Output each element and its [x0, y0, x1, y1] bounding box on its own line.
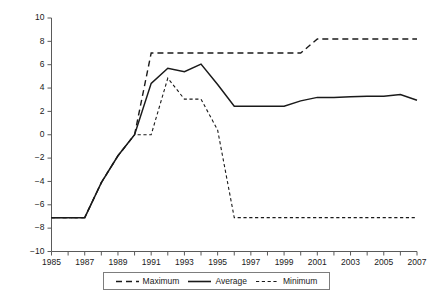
y-tick-label: −8 — [35, 222, 45, 232]
x-tick-label: 1987 — [75, 257, 94, 267]
legend-entry-maximum: Maximum — [116, 277, 180, 286]
x-tick-label: 2005 — [374, 257, 393, 267]
y-tick-label: 0 — [40, 129, 45, 139]
x-tick-label: 1995 — [208, 257, 227, 267]
legend-label-average: Average — [215, 277, 247, 286]
x-tick-label: 2003 — [341, 257, 360, 267]
y-tick-label: −6 — [35, 199, 45, 209]
y-axis-ticks — [48, 18, 52, 252]
series-line-average — [52, 64, 418, 218]
legend-label-minimum: Minimum — [283, 277, 317, 286]
y-tick-label: 4 — [40, 82, 45, 92]
legend-entry-minimum: Minimum — [256, 277, 317, 286]
y-tick-label: 10 — [35, 12, 45, 22]
x-tick-label: 1991 — [142, 257, 161, 267]
x-tick-label: 1989 — [108, 257, 127, 267]
plot-area: 1086420−2−4−6−8−10 198519871989199119931… — [0, 0, 432, 302]
legend-label-maximum: Maximum — [143, 277, 180, 286]
data-series-group — [52, 39, 418, 218]
x-tick-label: 2007 — [408, 257, 427, 267]
x-tick-label: 2001 — [308, 257, 327, 267]
legend-swatch-minimum — [256, 277, 279, 286]
legend-swatch-maximum — [116, 277, 139, 286]
legend-entry-average: Average — [188, 277, 247, 286]
line-chart: 1086420−2−4−6−8−10 198519871989199119931… — [0, 0, 432, 302]
y-axis-tick-labels: 1086420−2−4−6−8−10 — [30, 12, 45, 256]
y-tick-label: 6 — [40, 59, 45, 69]
legend-swatch-average — [188, 277, 211, 286]
series-line-maximum — [52, 39, 418, 218]
y-tick-label: −2 — [35, 152, 45, 162]
chart-legend: Maximum Average Minimum — [103, 272, 330, 290]
x-tick-label: 1999 — [275, 257, 294, 267]
y-tick-label: 2 — [40, 106, 45, 116]
x-axis-tick-labels: 1985198719891991199319951997199920012003… — [42, 257, 427, 267]
x-tick-label: 1993 — [175, 257, 194, 267]
series-line-minimum — [52, 78, 418, 218]
plot-svg: 1086420−2−4−6−8−10 198519871989199119931… — [0, 0, 432, 302]
y-tick-label: −10 — [30, 246, 45, 256]
x-axis-ticks — [52, 252, 418, 256]
x-tick-label: 1997 — [241, 257, 260, 267]
y-tick-label: −4 — [35, 176, 45, 186]
x-tick-label: 1985 — [42, 257, 61, 267]
y-tick-label: 8 — [40, 36, 45, 46]
